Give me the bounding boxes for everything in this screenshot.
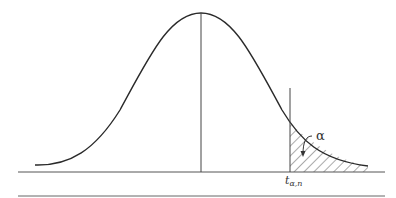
critical-value-label: tα,n (285, 174, 303, 188)
t-distribution-diagram: α tα,n (0, 0, 396, 198)
alpha-label: α (316, 128, 325, 143)
